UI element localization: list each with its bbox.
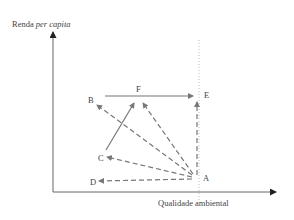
- point-label-a: A: [203, 174, 209, 183]
- arrow-c-f: [106, 103, 134, 150]
- y-axis-label: Renda per capita: [12, 20, 71, 29]
- y-axis-label-italic: per capita: [36, 19, 71, 29]
- y-axis-label-prefix: Renda: [12, 19, 36, 29]
- diagram-canvas: [0, 0, 294, 220]
- arrow-a-d: [99, 179, 192, 181]
- point-label-b: B: [88, 96, 94, 105]
- point-label-e: E: [204, 91, 209, 100]
- x-axis-label: Qualidade ambiental: [158, 199, 229, 208]
- arrow-a-f: [143, 103, 193, 174]
- point-label-d: D: [90, 178, 96, 187]
- arrow-a-c: [107, 157, 192, 177]
- point-label-f: F: [136, 85, 141, 94]
- arrow-a-b: [97, 105, 192, 175]
- point-label-c: C: [98, 154, 104, 163]
